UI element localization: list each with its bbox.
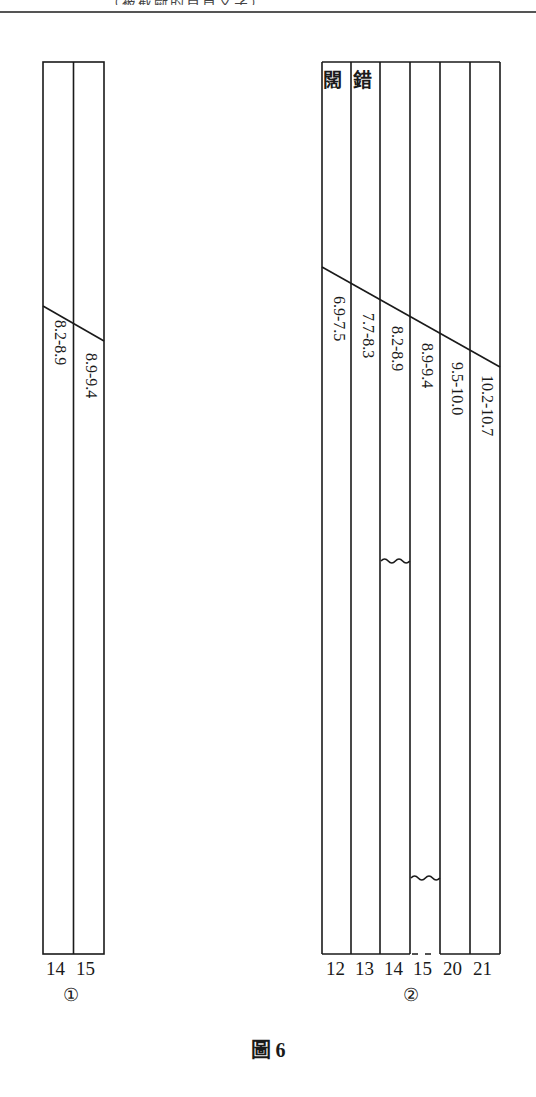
panel-2-range-20: 9.5-10.0 (449, 362, 465, 415)
panel-2-range-14: 8.2-8.9 (389, 326, 405, 371)
panel-2-col-number-14: 14 (384, 959, 403, 979)
panel-2-top-label-2: 錯 (353, 70, 372, 90)
panel-2-range-13: 7.7-8.3 (360, 313, 376, 358)
figure-diagram (0, 0, 536, 1097)
panel-2-box (322, 62, 500, 954)
panel-1-col-number-14: 14 (46, 959, 65, 979)
figure-caption: 圖 6 (0, 1034, 536, 1063)
col15-wavy-break (411, 876, 440, 880)
panel-2-col-number-21: 21 (473, 959, 492, 979)
panel-2-diagonal (322, 267, 500, 367)
col14-wavy-break (381, 559, 410, 563)
panel-1-marker: ① (63, 985, 79, 1005)
panel-2-col-number-13: 13 (355, 959, 374, 979)
panel-2-col-number-12: 12 (326, 959, 345, 979)
panel-1-range-14: 8.2-8.9 (52, 320, 68, 365)
panel-2-range-21: 10.2-10.7 (479, 375, 495, 436)
panel-1-range-15: 8.9-9.4 (83, 353, 99, 398)
panel-2-range-12: 6.9-7.5 (331, 296, 347, 341)
panel-2-col-number-15: 15 (413, 959, 432, 979)
panel-2-col-number-20: 20 (443, 959, 462, 979)
panel-2-top-label-1: 闊 (323, 70, 342, 90)
panel-2-marker: ② (403, 985, 419, 1005)
panel-1-col-number-15: 15 (76, 959, 95, 979)
panel-2-range-15: 8.9-9.4 (419, 343, 435, 388)
panel-1-box (43, 62, 104, 954)
